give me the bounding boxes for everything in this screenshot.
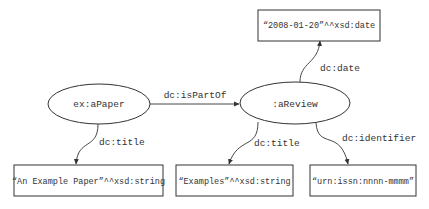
node-date-literal: “2008-01-20”^^xsd:date [258, 10, 380, 41]
literal-label-identifier: “urn:issn:nnnn-mmmm” [312, 177, 414, 187]
node-areview: :aReview [240, 82, 350, 124]
rdf-graph-diagram: dc:isPartOf dc:title dc:date dc:title dc… [0, 0, 429, 209]
node-paper-title-literal: “An Example Paper”^^xsd:string [12, 165, 165, 196]
node-review-title-literal: “Examples”^^xsd:string [176, 165, 293, 196]
edge-paper-title: dc:title [76, 124, 145, 164]
node-ex-apaper: ex:aPaper [48, 84, 150, 124]
edge-label-date: dc:date [320, 63, 360, 74]
paper-title-arrow [76, 124, 98, 164]
edge-label-review-title: dc:title [254, 138, 300, 149]
node-identifier-literal: “urn:issn:nnnn-mmmm” [310, 165, 416, 196]
node-label-apaper: ex:aPaper [73, 99, 124, 110]
date-arrow [300, 41, 320, 82]
edge-label-identifier: dc:identifier [342, 133, 416, 144]
edge-ispartof: dc:isPartOf [150, 90, 239, 104]
literal-label-paper-title: “An Example Paper”^^xsd:string [12, 177, 165, 187]
node-label-areview: :aReview [272, 99, 318, 110]
edge-label-paper-title: dc:title [99, 137, 145, 148]
edge-identifier: dc:identifier [316, 123, 416, 164]
edge-date: dc:date [300, 41, 360, 82]
edge-label-ispartof: dc:isPartOf [164, 90, 227, 101]
edge-review-title: dc:title [229, 122, 300, 164]
literal-label-review-title: “Examples”^^xsd:string [178, 177, 290, 187]
literal-label-date: “2008-01-20”^^xsd:date [263, 21, 375, 31]
